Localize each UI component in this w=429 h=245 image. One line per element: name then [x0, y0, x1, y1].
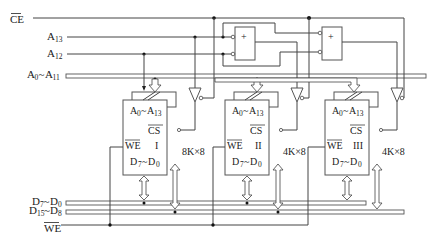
svg-text:CS: CS	[350, 125, 362, 136]
svg-text:D: D	[29, 204, 37, 216]
svg-text:0: 0	[58, 200, 62, 209]
or-gate-2: +	[318, 27, 342, 60]
memory-chip-I: A 0 ~ A 13 CS WE I D 7 ~ D 0	[123, 92, 176, 175]
or-gate-1: +	[231, 27, 255, 60]
data-bus-low	[66, 201, 366, 205]
label-a12: A 12	[47, 47, 63, 61]
data-arrow-chip-I-high	[170, 164, 180, 214]
svg-text:D: D	[250, 156, 257, 167]
chip-I-size: 8K×8	[182, 146, 205, 157]
svg-text:D: D	[332, 156, 339, 167]
svg-text:WE: WE	[44, 222, 61, 234]
svg-text:13: 13	[154, 109, 162, 118]
label-ce: CE	[10, 13, 24, 25]
memory-expansion-circuit-diagram: CE A 13 A 12 A 0 ~ A 11 D 7 ~ D 0 D 15 ~…	[0, 0, 429, 245]
data-arrow-chip-III-low	[342, 176, 352, 200]
svg-text:WE: WE	[327, 140, 343, 151]
svg-text:0: 0	[358, 160, 362, 169]
data-arrow-chip-II-high	[273, 164, 283, 214]
label-a13: A 13	[47, 30, 63, 44]
svg-text:A: A	[47, 47, 55, 59]
address-arrow-chip-I	[149, 77, 161, 92]
memory-chip-II: A 0 ~ A 13 CS WE II D 7 ~ D 0	[225, 92, 278, 175]
svg-text:13: 13	[55, 35, 63, 44]
svg-text:III: III	[353, 140, 363, 151]
svg-text:II: II	[255, 140, 262, 151]
label-address-bus: A 0 ~ A 11	[27, 68, 60, 82]
data-arrow-chip-I-low	[139, 176, 149, 205]
chip-I-roman: I	[155, 140, 158, 151]
inverter-3	[391, 88, 404, 102]
svg-text:+: +	[328, 31, 334, 42]
svg-text:D: D	[350, 156, 357, 167]
inverter-2	[291, 88, 304, 102]
svg-text:0: 0	[258, 160, 262, 169]
inverter-1	[189, 88, 203, 102]
data-bus-high	[66, 210, 404, 214]
svg-text:D: D	[50, 204, 58, 216]
svg-text:D: D	[232, 156, 239, 167]
data-arrow-chip-III-high	[372, 164, 382, 209]
ce-label: CE	[10, 13, 24, 25]
chip-I-cs: CS	[148, 125, 160, 136]
svg-text:A: A	[47, 30, 55, 42]
svg-text:CS: CS	[250, 125, 262, 136]
svg-text:12: 12	[55, 52, 63, 61]
memory-chip-III: A 0 ~ A 13 CS WE III D 7 ~ D 0	[325, 92, 378, 175]
svg-text:WE: WE	[227, 140, 243, 151]
svg-text:0: 0	[156, 160, 160, 169]
chip-II-size: 4K×8	[283, 146, 306, 157]
chip-III-size: 4K×8	[382, 146, 405, 157]
chip-I-we: WE	[125, 140, 141, 151]
svg-text:D: D	[130, 156, 137, 167]
svg-text:D: D	[148, 156, 155, 167]
svg-text:~: ~	[39, 68, 45, 80]
label-we: WE	[44, 222, 61, 234]
data-arrow-chip-II-low	[242, 176, 252, 205]
svg-text:13: 13	[356, 109, 364, 118]
label-data-bus-high: D 15 ~ D 8	[29, 204, 62, 218]
svg-text:11: 11	[53, 73, 60, 82]
address-arrow-chip-III	[215, 78, 360, 92]
svg-text:+: +	[241, 31, 247, 42]
address-bus	[66, 74, 426, 78]
svg-text:8: 8	[58, 209, 62, 218]
svg-text:13: 13	[256, 109, 264, 118]
